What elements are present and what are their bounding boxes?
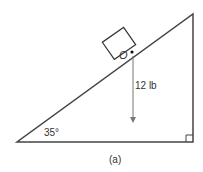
angle-label: 35° [44, 127, 59, 138]
caption: (a) [109, 154, 121, 165]
force-label: 12 lb [135, 80, 157, 91]
incline-triangle [17, 14, 193, 142]
center-point [130, 50, 133, 53]
right-angle-marker [186, 135, 193, 142]
incline-diagram: O 12 lb 35° (a) [0, 0, 203, 172]
block-label: O [119, 49, 128, 61]
